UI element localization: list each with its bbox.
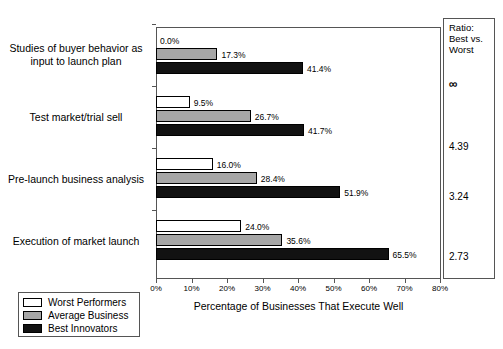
chart-plot-right-edge	[440, 27, 441, 279]
legend-swatch-icon-best	[23, 324, 42, 333]
bar-best-0	[156, 62, 303, 74]
category-label-line-1: Execution of market launch	[2, 235, 150, 248]
bar-value-label-average-3: 35.6%	[286, 235, 310, 247]
x-axis-tick-label-60: 60%	[361, 284, 377, 293]
ratio-header-line-3: Worst	[449, 44, 483, 55]
bar-value-label-best-1: 41.7%	[308, 125, 332, 137]
x-axis: 0%10%20%30%40%50%60%70%80%	[156, 279, 441, 284]
x-axis-tick-50	[334, 279, 335, 283]
bar-value-label-average-2: 28.4%	[261, 173, 285, 185]
category-label-2: Pre-launch business analysis	[2, 173, 150, 186]
bar-value-label-worst-1: 9.5%	[194, 97, 213, 109]
bar-value-label-best-3: 65.5%	[393, 249, 417, 261]
bar-best-2	[156, 186, 340, 198]
ratio-value-3: 2.73	[449, 251, 468, 262]
y-axis-tick	[152, 86, 156, 87]
bar-worst-3	[156, 220, 241, 232]
ratio-value-0: ∞	[449, 77, 458, 91]
y-axis-tick	[152, 210, 156, 211]
x-axis-tick-label-80: 80%	[432, 284, 448, 293]
category-label-line-1: Studies of buyer behavior as	[2, 42, 150, 55]
y-axis-tick	[152, 24, 156, 25]
x-axis-tick-label-30: 30%	[254, 284, 270, 293]
category-label-line-1: Pre-launch business analysis	[2, 173, 150, 186]
x-axis-tick-label-0: 0%	[150, 284, 162, 293]
bar-value-label-worst-2: 16.0%	[217, 159, 241, 171]
legend-swatch-icon-worst	[23, 298, 42, 307]
bar-value-label-best-2: 51.9%	[344, 187, 368, 199]
legend-item-best-innovators: Best Innovators	[23, 322, 135, 335]
legend-label-worst: Worst Performers	[48, 297, 126, 308]
chart-legend: Worst Performers Average Business Best I…	[18, 292, 140, 337]
bar-best-3	[156, 248, 389, 260]
legend-label-best: Best Innovators	[48, 323, 117, 334]
x-axis-tick-40	[298, 279, 299, 283]
ratio-column-header: Ratio: Best vs. Worst	[449, 22, 483, 55]
x-axis-tick-label-20: 20%	[219, 284, 235, 293]
legend-item-worst-performers: Worst Performers	[23, 296, 135, 309]
bar-value-label-worst-0: 0.0%	[160, 35, 179, 47]
ratio-value-1: 4.39	[449, 141, 468, 152]
bar-worst-1	[156, 96, 190, 108]
legend-swatch-icon-average	[23, 311, 42, 320]
ratio-header-line-1: Ratio:	[449, 22, 483, 33]
x-axis-tick-label-40: 40%	[290, 284, 306, 293]
bar-average-2	[156, 172, 257, 184]
x-axis-tick-0	[156, 279, 157, 283]
category-label-line-2: input to launch plan	[2, 55, 150, 68]
bar-value-label-average-1: 26.7%	[255, 111, 279, 123]
bar-worst-2	[156, 158, 213, 170]
legend-label-average: Average Business	[48, 310, 128, 321]
category-label-1: Test market/trial sell	[2, 111, 150, 124]
category-label-line-1: Test market/trial sell	[2, 111, 150, 124]
y-axis-tick	[152, 148, 156, 149]
bar-value-label-best-0: 41.4%	[307, 63, 331, 75]
legend-item-average-business: Average Business	[23, 309, 135, 322]
bar-average-1	[156, 110, 251, 122]
ratio-header-line-2: Best vs.	[449, 33, 483, 44]
x-axis-tick-label-70: 70%	[396, 284, 412, 293]
x-axis-tick-70	[405, 279, 406, 283]
ratio-value-2: 3.24	[449, 191, 468, 202]
category-label-3: Execution of market launch	[2, 235, 150, 248]
bar-value-label-worst-3: 24.0%	[245, 221, 269, 233]
x-axis-tick-80	[440, 279, 441, 283]
x-axis-tick-20	[227, 279, 228, 283]
x-axis-title: Percentage of Businesses That Execute We…	[156, 300, 441, 312]
bar-value-label-average-0: 17.3%	[221, 49, 245, 61]
x-axis-tick-30	[263, 279, 264, 283]
ratio-column: Ratio: Best vs. Worst ∞ 4.39 3.24 2.73	[443, 18, 495, 279]
x-axis-tick-10	[192, 279, 193, 283]
bar-best-1	[156, 124, 304, 136]
x-axis-tick-60	[369, 279, 370, 283]
x-axis-tick-label-50: 50%	[325, 284, 341, 293]
bar-average-3	[156, 234, 282, 246]
category-label-0: Studies of buyer behavior asinput to lau…	[2, 42, 150, 68]
x-axis-tick-label-10: 10%	[183, 284, 199, 293]
bar-average-0	[156, 48, 217, 60]
